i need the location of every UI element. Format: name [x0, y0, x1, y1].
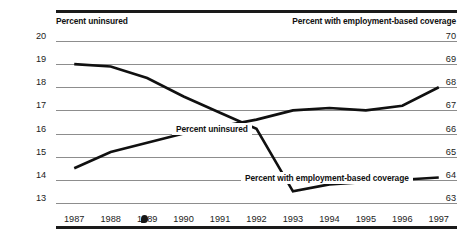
x-tick-1996: 1996	[384, 213, 420, 226]
series-label-employment-based-coverage: Percent with employment-based coverage	[241, 172, 413, 184]
x-axis-ticks: 1987198819891990199119921993199419951996…	[56, 213, 457, 226]
x-tick-1994: 1994	[311, 213, 347, 226]
x-tick-1995: 1995	[348, 213, 384, 226]
chart-figure: Percent uninsured Percent with employmen…	[0, 0, 467, 241]
x-tick-1992: 1992	[238, 213, 274, 226]
top-rule	[56, 10, 457, 13]
x-tick-1991: 1991	[202, 213, 238, 226]
cursor-artifact	[141, 215, 148, 223]
x-tick-1988: 1988	[92, 213, 128, 226]
left-axis-caption: Percent uninsured	[56, 16, 128, 26]
x-tick-1990: 1990	[165, 213, 201, 226]
series-label-uninsured: Percent uninsured	[172, 123, 252, 135]
plot-area: 20701969186817671666156514641363 Percent…	[0, 30, 467, 215]
x-tick-1993: 1993	[275, 213, 311, 226]
x-tick-1987: 1987	[56, 213, 92, 226]
right-axis-caption: Percent with employment-based coverage	[292, 16, 456, 26]
bottom-rule	[56, 226, 457, 229]
x-tick-1997: 1997	[421, 213, 457, 226]
